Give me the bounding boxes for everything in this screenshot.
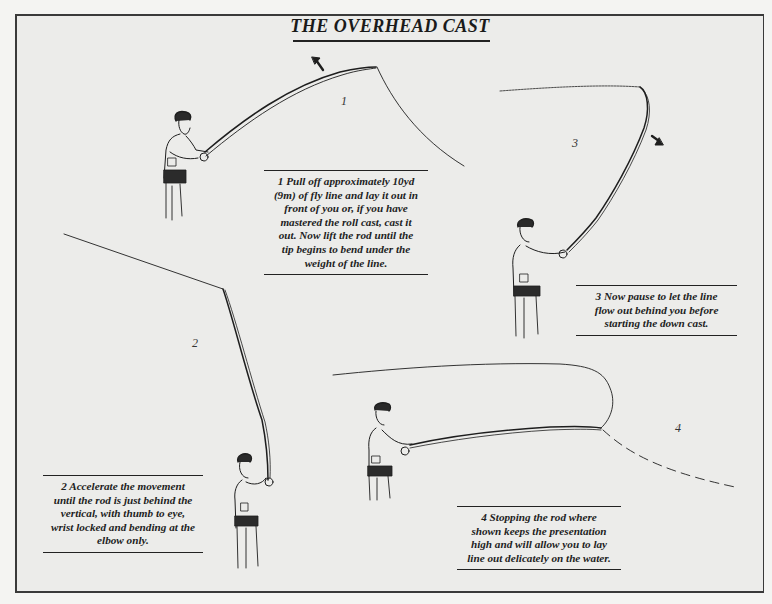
caption-line: 2 Accelerate the movement xyxy=(43,480,203,494)
caption-line: (9m) of fly line and lay it out in xyxy=(264,189,428,203)
step-4-number: 4 xyxy=(675,421,681,436)
caption-line: high and will allow you to lay xyxy=(457,538,621,552)
step-2-caption: 2 Accelerate the movement until the rod … xyxy=(43,475,203,553)
caption-line: starting the down cast. xyxy=(576,317,737,331)
up-left-arrow-icon xyxy=(312,57,323,70)
step-1-number: 1 xyxy=(341,94,347,109)
step-1-caption: 1 Pull off approximately 10yd (9m) of fl… xyxy=(264,170,428,275)
step-3-number: 3 xyxy=(572,136,578,151)
caption-line: weight of the line. xyxy=(264,257,428,271)
caption-line: line out delicately on the water. xyxy=(457,552,621,566)
caption-line: vertical, with thumb to eye, xyxy=(43,507,203,521)
step-3-caption: 3 Now pause to let the line flow out beh… xyxy=(576,285,737,336)
caption-line: out. Now lift the rod until the xyxy=(264,229,428,243)
caption-line: 4 Stopping the rod where xyxy=(457,511,621,525)
caption-line: front of you or, if you have xyxy=(264,202,428,216)
caption-line: mastered the roll cast, cast it xyxy=(264,216,428,230)
caption-line: 3 Now pause to let the line xyxy=(576,290,737,304)
down-right-arrow-icon xyxy=(652,136,663,145)
caption-line: 1 Pull off approximately 10yd xyxy=(264,175,428,189)
caption-line: until the rod is just behind the xyxy=(43,494,203,508)
caption-line: flow out behind you before xyxy=(576,304,737,318)
caption-line: tip begins to bend under the xyxy=(264,243,428,257)
step-4-caption: 4 Stopping the rod where shown keeps the… xyxy=(457,506,621,570)
caption-line: wrist locked and bending at the xyxy=(43,521,203,535)
step-2-number: 2 xyxy=(192,336,198,351)
caption-line: shown keeps the presentation xyxy=(457,525,621,539)
caption-line: elbow only. xyxy=(43,534,203,548)
